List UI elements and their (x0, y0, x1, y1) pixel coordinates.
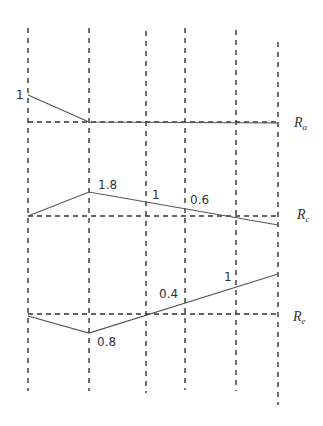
ra-influence-line (28, 95, 278, 123)
rc-value-label-1: 1.8 (98, 178, 117, 192)
panel-re: 0.8 0.4 1 Re (28, 270, 306, 349)
panel-rc: 1.8 1 0.6 Rc (28, 178, 310, 225)
influence-line-diagram: 1 Ra 1.8 1 0.6 Rc 0.8 0.4 1 Re (0, 0, 323, 426)
re-influence-line (28, 274, 278, 333)
re-value-label-3: 1 (224, 270, 232, 284)
re-value-label-1: 0.8 (97, 335, 116, 349)
re-label: Re (292, 309, 306, 326)
ra-value-label: 1 (16, 88, 24, 102)
panel-ra: 1 Ra (16, 88, 308, 132)
rc-label: Rc (296, 207, 310, 224)
re-value-label-2: 0.4 (159, 287, 178, 301)
rc-value-label-3: 0.6 (190, 193, 209, 207)
rc-value-label-2: 1 (152, 188, 160, 202)
ra-label: Ra (293, 115, 308, 132)
